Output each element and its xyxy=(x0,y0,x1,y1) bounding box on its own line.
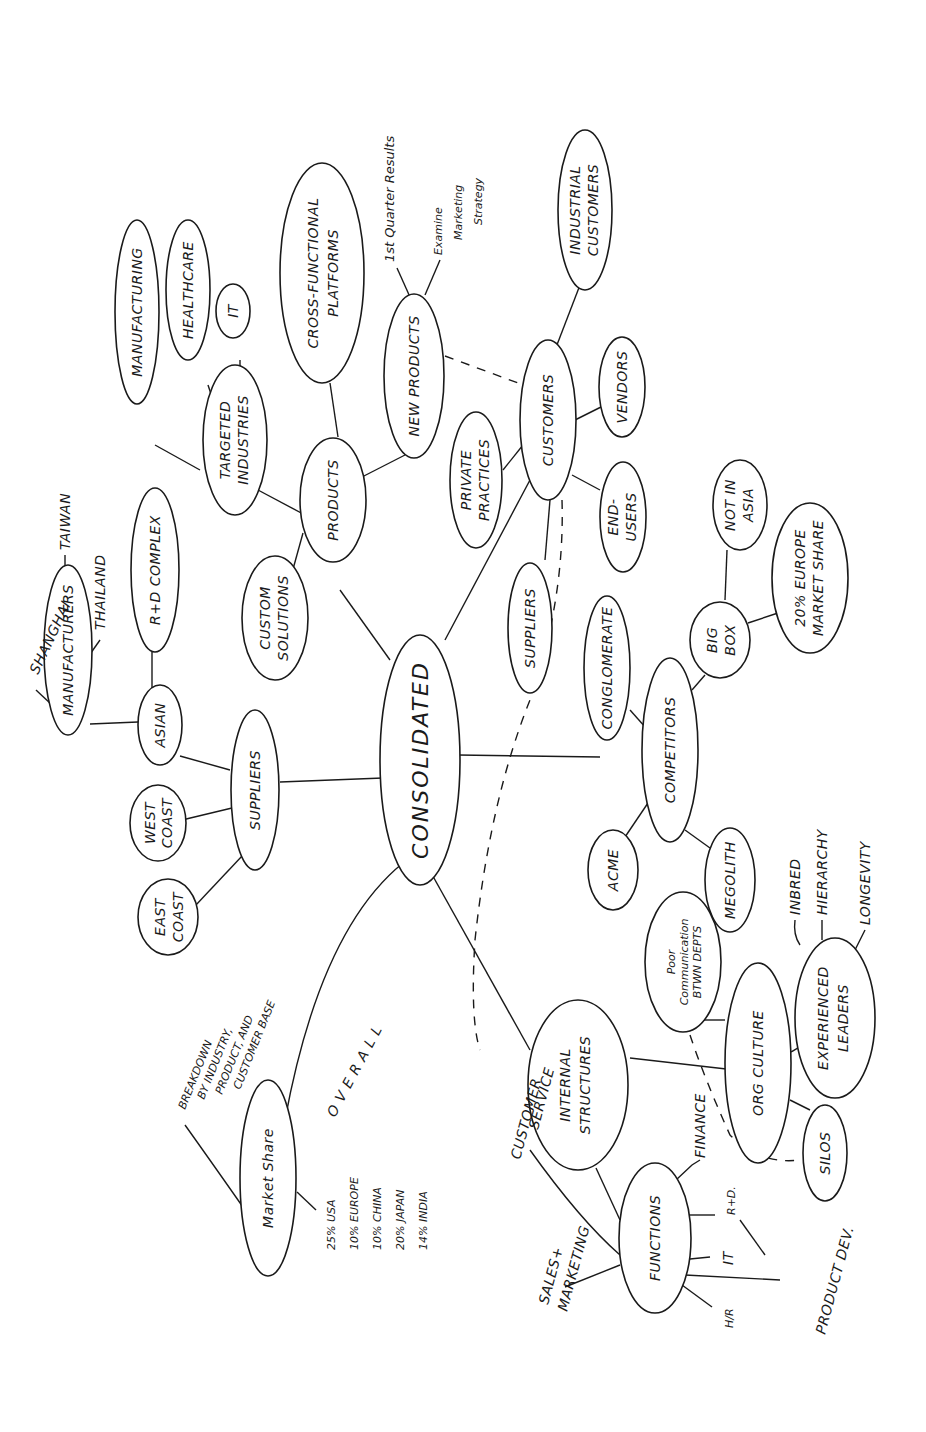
node-new-products[interactable]: NEW PRODUCTS xyxy=(384,294,444,458)
edge-customers-private xyxy=(503,445,523,470)
node-europe-share-label-2: MARKET SHARE xyxy=(810,520,826,636)
share-china: 10% CHINA xyxy=(371,1187,384,1250)
node-customers-label: CUSTOMERS xyxy=(540,374,556,467)
node-suppliers[interactable]: SUPPLIERS xyxy=(231,710,279,870)
edge-customers-industrial xyxy=(555,285,580,350)
node-functions-label: FUNCTIONS xyxy=(647,1195,663,1281)
leaf-taiwan: TAIWAN xyxy=(57,493,73,550)
node-acme[interactable]: ACME xyxy=(588,830,638,910)
node-leaders-label-2: LEADERS xyxy=(835,984,851,1052)
node-end-users[interactable]: END- USERS xyxy=(600,462,646,572)
node-industrial-label-2: CUSTOMERS xyxy=(585,164,601,257)
node-big-box[interactable]: BIG BOX xyxy=(690,602,750,678)
node-customer-suppliers[interactable]: SUPPLIERS xyxy=(508,563,552,693)
edge-leaders-inbred xyxy=(795,920,800,945)
node-big-box-label-1: BIG xyxy=(704,627,720,653)
node-it-industry[interactable]: IT xyxy=(216,284,250,338)
edge-functions-it xyxy=(690,1257,710,1259)
node-org-culture-label: ORG CULTURE xyxy=(750,1010,766,1116)
leaf-finance: FINANCE xyxy=(692,1093,708,1158)
leaf-longevity: LONGEVITY xyxy=(857,840,873,925)
node-internal-label-2: STRUCTURES xyxy=(577,1036,593,1134)
node-products-label: PRODUCTS xyxy=(325,459,341,540)
edge-internal-functions xyxy=(596,1168,620,1220)
node-consolidated-label: CONSOLIDATED xyxy=(408,661,433,859)
node-east-coast-label-2: COAST xyxy=(170,891,186,942)
share-japan: 20% JAPAN xyxy=(394,1189,407,1250)
share-india: 14% INDIA xyxy=(417,1191,430,1250)
edge-newproducts-q1 xyxy=(397,268,410,297)
node-products[interactable]: PRODUCTS xyxy=(300,438,366,562)
edge-orgculture-silos xyxy=(790,1100,810,1110)
note-first-quarter-results: 1st Quarter Results xyxy=(382,136,397,262)
node-competitors-label: COMPETITORS xyxy=(662,697,678,804)
node-targeted-label-1: TARGETED xyxy=(217,401,233,479)
node-competitors[interactable]: COMPETITORS xyxy=(642,658,698,842)
node-targeted-label-2: INDUSTRIES xyxy=(235,395,251,485)
node-leaders-label-1: EXPERIENCED xyxy=(815,966,831,1070)
node-big-box-label-2: BOX xyxy=(722,624,738,655)
node-suppliers-label: SUPPLIERS xyxy=(247,750,263,830)
node-it-industry-label: IT xyxy=(225,303,241,318)
edge-leaders-longevity xyxy=(855,930,865,950)
edge-competitors-bigbox xyxy=(692,675,705,690)
node-org-culture[interactable]: ORG CULTURE xyxy=(725,963,791,1163)
node-experienced-leaders[interactable]: EXPERIENCED LEADERS xyxy=(795,938,875,1098)
node-vendors[interactable]: VENDORS xyxy=(599,337,645,437)
node-manufacturing[interactable]: MANUFACTURING xyxy=(115,220,159,404)
share-usa: 25% USA xyxy=(325,1199,338,1250)
node-internal-label-1: INTERNAL xyxy=(557,1048,573,1122)
share-europe: 10% EUROPE xyxy=(348,1177,361,1250)
node-conglomerate[interactable]: CONGLOMERATE xyxy=(584,596,630,740)
node-private-label-1: PRIVATE xyxy=(458,450,474,510)
edge-targeted-manufacturing xyxy=(155,445,200,470)
edge-rd-productdev xyxy=(740,1220,765,1255)
node-consolidated[interactable]: CONSOLIDATED xyxy=(380,635,460,885)
leaf-hierarchy: HIERARCHY xyxy=(814,828,830,915)
node-cross-functional-label-2: PLATFORMS xyxy=(325,229,341,317)
node-poor-communication[interactable]: Poor Communication BTWN DEPTS xyxy=(645,892,721,1032)
edge-bigbox-notinasia xyxy=(725,550,727,600)
node-not-in-asia[interactable]: NOT IN ASIA xyxy=(713,460,767,550)
node-custom-solutions-label-1: CUSTOM xyxy=(257,586,273,650)
node-custom-solutions[interactable]: CUSTOM SOLUTIONS xyxy=(242,556,308,680)
node-not-in-asia-label-1: NOT IN xyxy=(722,479,738,531)
leaf-thailand: THAILAND xyxy=(92,555,108,630)
node-silos[interactable]: SILOS xyxy=(803,1105,847,1201)
edge-products-targeted xyxy=(258,490,305,515)
edge-bigbox-europe xyxy=(748,613,778,623)
node-healthcare[interactable]: HEALTHCARE xyxy=(166,220,210,360)
node-acme-label: ACME xyxy=(605,849,621,892)
node-east-coast[interactable]: EAST COAST xyxy=(138,879,198,955)
node-west-coast[interactable]: WEST COAST xyxy=(130,785,186,861)
node-west-coast-label-2: COAST xyxy=(159,797,175,848)
edge-root-suppliers xyxy=(280,778,383,782)
node-market-share[interactable]: Market Share xyxy=(240,1080,296,1276)
node-rd-complex[interactable]: R+D COMPLEX xyxy=(131,488,179,652)
node-europe-market-share[interactable]: 20% EUROPE MARKET SHARE xyxy=(772,503,848,653)
node-private-practices[interactable]: PRIVATE PRACTICES xyxy=(450,412,502,548)
leaf-hr: H/R xyxy=(723,1308,736,1328)
node-east-coast-label-1: EAST xyxy=(152,897,168,936)
edge-internal-orgculture xyxy=(630,1058,735,1070)
node-new-products-label: NEW PRODUCTS xyxy=(406,315,422,436)
node-asian[interactable]: ASIAN xyxy=(138,685,182,765)
edge-functions-hr xyxy=(682,1285,712,1307)
edge-root-competitors xyxy=(458,755,600,757)
node-industrial-customers[interactable]: INDUSTRIAL CUSTOMERS xyxy=(558,130,612,290)
node-west-coast-label-1: WEST xyxy=(142,801,158,844)
node-targeted-industries[interactable]: TARGETED INDUSTRIES xyxy=(203,365,267,515)
edge-suppliers-eastcoast xyxy=(195,855,243,906)
node-manufacturing-label: MANUFACTURING xyxy=(129,247,145,376)
node-europe-share-label-1: 20% EUROPE xyxy=(792,529,808,627)
node-rd-complex-label: R+D COMPLEX xyxy=(147,515,163,625)
leaf-it-function: IT xyxy=(720,1250,736,1265)
edge-competitors-acme xyxy=(625,800,650,837)
node-cross-functional[interactable]: CROSS-FUNCTIONAL PLATFORMS xyxy=(280,163,364,383)
node-functions[interactable]: FUNCTIONS xyxy=(619,1163,691,1313)
node-customers[interactable]: CUSTOMERS xyxy=(520,340,576,500)
leaf-inbred: INBRED xyxy=(787,858,803,915)
note-examine-3: Strategy xyxy=(472,177,485,225)
node-poor-comm-label-2: Communication xyxy=(678,919,691,1006)
edge-customers-suppliers xyxy=(545,500,550,560)
